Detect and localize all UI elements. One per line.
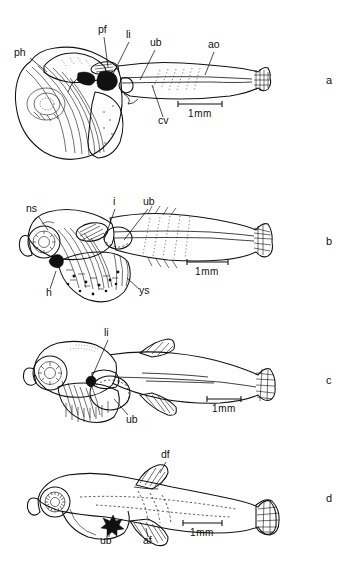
label-ns: ns bbox=[26, 202, 37, 214]
label-ao: ao bbox=[208, 38, 220, 50]
panel-letter-d: d bbox=[326, 492, 332, 504]
label-af: af bbox=[143, 534, 152, 546]
panel-letter-b: b bbox=[326, 235, 332, 247]
panel-b: ns i ub h ys 1mm b bbox=[0, 190, 349, 315]
scale-label-a: 1mm bbox=[188, 108, 212, 119]
label-pf: pf bbox=[98, 23, 107, 35]
label-ub-d: ub bbox=[100, 534, 112, 546]
label-ub: ub bbox=[150, 36, 162, 48]
label-ub-b: ub bbox=[143, 195, 155, 207]
label-ub-c: ub bbox=[126, 413, 138, 425]
panel-a-drawing: ph pf li ub ao cv 1mm bbox=[0, 0, 349, 175]
scale-bar-b: 1mm bbox=[187, 259, 228, 277]
figure-container: ph pf li ub ao cv 1mm a bbox=[0, 0, 349, 566]
label-cv: cv bbox=[158, 114, 169, 126]
panel-c-drawing: li ub 1mm bbox=[0, 325, 349, 435]
label-i: i bbox=[113, 195, 115, 207]
label-ph: ph bbox=[14, 46, 26, 58]
label-h: h bbox=[46, 286, 52, 298]
label-df: df bbox=[161, 448, 170, 460]
label-ys: ys bbox=[139, 284, 150, 296]
scale-bar-a: 1mm bbox=[178, 101, 222, 119]
panel-d-drawing: df ub af 1mm bbox=[0, 445, 349, 566]
label-li-c: li bbox=[104, 326, 109, 338]
panel-letter-a: a bbox=[326, 74, 332, 86]
scale-label-b: 1mm bbox=[195, 266, 219, 277]
panel-a: ph pf li ub ao cv 1mm a bbox=[0, 0, 349, 175]
scale-label-d: 1mm bbox=[190, 527, 214, 538]
panel-letter-c: c bbox=[326, 374, 332, 386]
panel-d: df ub af 1mm d bbox=[0, 445, 349, 566]
scale-bar-c: 1mm bbox=[207, 396, 241, 414]
panel-c: li ub 1mm c bbox=[0, 325, 349, 435]
scale-label-c: 1mm bbox=[212, 403, 236, 414]
label-li: li bbox=[126, 28, 131, 40]
panel-b-drawing: ns i ub h ys 1mm bbox=[0, 190, 349, 315]
